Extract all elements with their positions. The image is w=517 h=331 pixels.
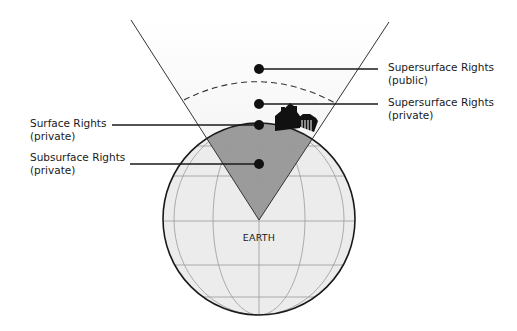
label-line: (private) [388,109,494,122]
label-subsurface: Subsurface Rights (private) [30,151,125,177]
label-line: Surface Rights [30,117,106,130]
label-line: (private) [30,130,106,143]
label-line: Subsurface Rights [30,151,125,164]
earth-label: EARTH [243,232,275,243]
node-supersurface-private [254,99,264,109]
label-line: (public) [388,74,494,87]
label-line: Supersurface Rights [388,61,494,74]
node-surface [254,120,264,130]
label-supersurface-public: Supersurface Rights (public) [388,61,494,87]
label-supersurface-private: Supersurface Rights (private) [388,96,494,122]
label-surface: Surface Rights (private) [30,117,106,143]
label-line: Supersurface Rights [388,96,494,109]
node-subsurface [254,159,264,169]
property-rights-diagram: Supersurface Rights (public) Supersurfac… [0,0,517,331]
label-line: (private) [30,164,125,177]
node-supersurface-public [254,64,264,74]
